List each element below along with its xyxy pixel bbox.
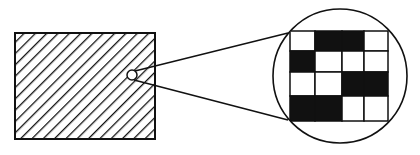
grid-cell-white — [364, 51, 388, 72]
grid-cell-black — [290, 51, 315, 72]
grid-cell-white — [290, 72, 315, 96]
pixel-grid — [290, 31, 388, 121]
grid-cell-white — [290, 31, 315, 51]
grid-cell-white — [342, 96, 364, 121]
magnifier-connector-lines — [134, 33, 288, 120]
grid-cell-white — [342, 51, 364, 72]
grid-cell-black — [315, 31, 342, 51]
grid-cell-white — [315, 72, 342, 96]
hatched-rectangle — [15, 33, 155, 139]
grid-cell-white — [364, 96, 388, 121]
grid-cell-black — [342, 72, 364, 96]
grid-cell-white — [364, 31, 388, 51]
magnification-diagram — [0, 0, 420, 155]
grid-cell-black — [315, 96, 342, 121]
grid-cell-black — [342, 31, 364, 51]
grid-cell-black — [290, 96, 315, 121]
grid-cell-white — [315, 51, 342, 72]
magnifier-source-circle — [127, 70, 137, 80]
grid-cell-black — [364, 72, 388, 96]
